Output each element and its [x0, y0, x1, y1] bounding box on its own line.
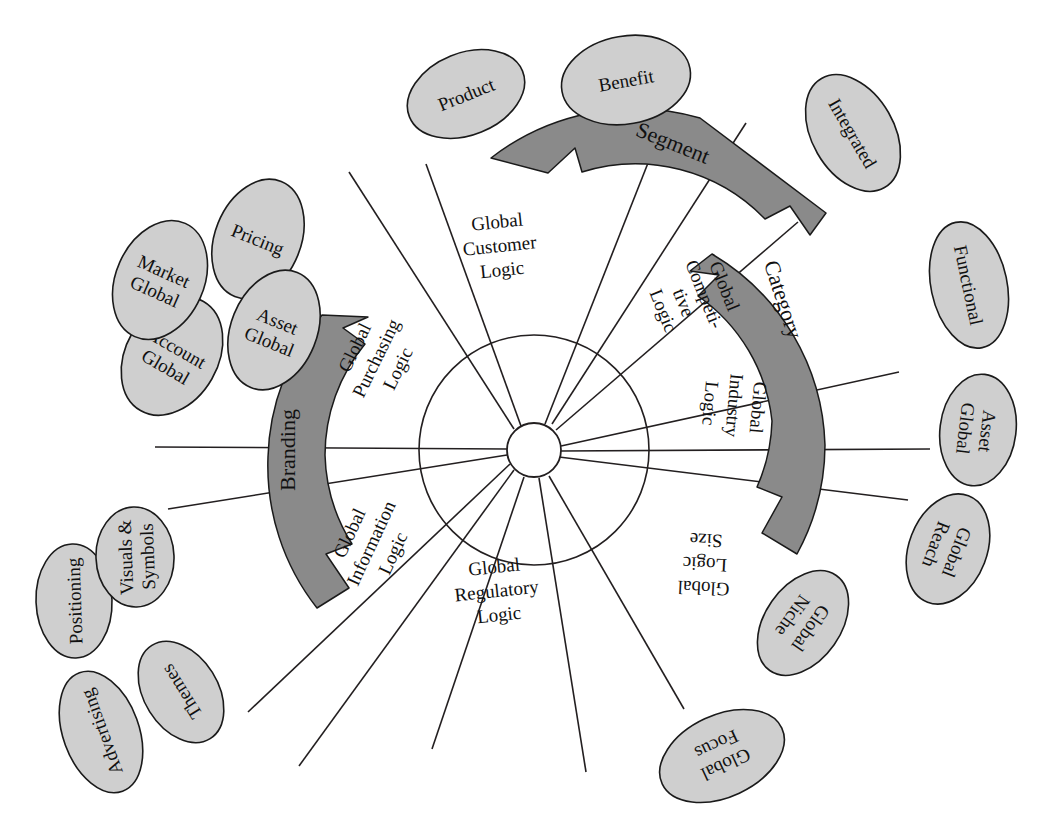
spoke-line — [426, 164, 521, 426]
svg-text:Logic: Logic — [698, 380, 723, 426]
diagram-canvas: Segment Category Branding Global Custome… — [0, 0, 1050, 833]
svg-text:Logic: Logic — [479, 257, 525, 283]
sector-labels-group: Global Customer Logic Global Competi- ti… — [320, 207, 771, 629]
node-label: Positioning — [62, 557, 86, 645]
sector-label-global-regulatory-logic: Global Regulatory Logic — [451, 552, 543, 629]
radial-diagram: Segment Category Branding Global Custome… — [0, 0, 1050, 833]
node-global-focus[interactable]: Global Focus — [645, 691, 799, 821]
svg-text:Customer: Customer — [462, 231, 538, 260]
svg-text:Logic: Logic — [476, 602, 522, 628]
spoke-line — [155, 447, 507, 449]
hub-circle — [507, 423, 561, 477]
svg-text:Global: Global — [677, 577, 730, 601]
svg-text:Industry: Industry — [721, 373, 747, 438]
node-global-niche[interactable]: Global Niche — [739, 554, 868, 693]
node-integrated[interactable]: Integrated — [786, 58, 920, 208]
spoke-line — [545, 125, 663, 424]
spoke-line — [539, 478, 586, 772]
sector-label-global-competitive-logic: Global Competi- tive Logic — [640, 249, 748, 348]
node-functional[interactable]: Functional — [919, 214, 1020, 355]
spoke-line — [559, 457, 908, 500]
svg-text:Global: Global — [746, 381, 771, 434]
node-label: Visuals & — [114, 519, 138, 595]
sector-label-global-size-logic: Global Logic Size — [677, 529, 732, 601]
sector-label-global-industry-logic: Global Industry Logic — [697, 371, 771, 441]
spoke-line — [349, 172, 514, 429]
spoke-line — [549, 476, 684, 709]
spoke-line — [168, 455, 507, 509]
svg-text:Logic: Logic — [682, 553, 727, 576]
svg-text:Global: Global — [467, 554, 521, 580]
sector-label-global-customer-logic: Global Customer Logic — [459, 207, 540, 283]
node-global-reach[interactable]: Global Reach — [891, 482, 1005, 616]
node-label: Symbols — [136, 523, 159, 590]
band-label-branding: Branding — [275, 409, 300, 491]
node-product[interactable]: Product — [394, 33, 538, 155]
svg-text:Global: Global — [470, 209, 524, 235]
svg-text:Regulatory: Regulatory — [453, 576, 540, 606]
svg-text:Size: Size — [689, 529, 723, 552]
node-asset-global-right[interactable]: Asset Global — [933, 370, 1022, 490]
spoke-line — [561, 449, 930, 451]
